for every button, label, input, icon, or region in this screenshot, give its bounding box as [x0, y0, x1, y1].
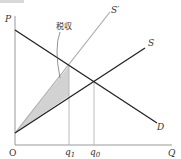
d-label: D [156, 122, 164, 132]
q-axis-label: Q [168, 148, 176, 158]
s-label: S [148, 38, 154, 48]
s-prime-label: S′ [111, 5, 119, 15]
q1-label: q1 [65, 147, 75, 159]
tax-pointer [57, 32, 60, 78]
tax-revenue-label: 税収 [56, 21, 72, 31]
origin-label: O [9, 148, 16, 158]
q0-label: q0 [90, 147, 101, 159]
supply-demand-diagram: P Q O q1 q0 S S′ D 税収 [0, 0, 181, 159]
supply-curve-s [15, 48, 145, 133]
p-axis-label: P [4, 14, 12, 24]
